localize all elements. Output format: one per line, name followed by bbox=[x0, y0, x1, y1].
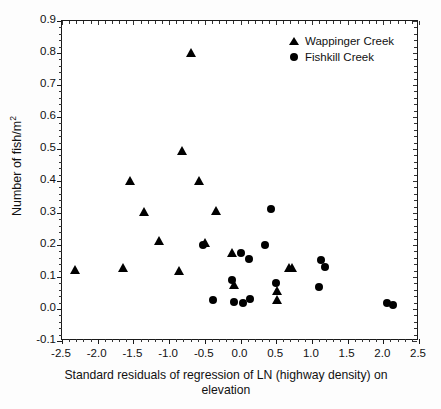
data-point-circle bbox=[261, 241, 269, 249]
y-tick-right-minor bbox=[414, 27, 417, 28]
y-tick-right-minor bbox=[414, 162, 417, 163]
x-tick-minor bbox=[326, 339, 327, 342]
x-tick-minor bbox=[183, 339, 184, 342]
x-tick-top-minor bbox=[233, 21, 234, 24]
x-tick-top-minor bbox=[319, 21, 320, 24]
x-tick-major bbox=[348, 339, 349, 344]
y-tick-right-minor bbox=[414, 303, 417, 304]
legend-entry-wappinger-creek: Wappinger Creek bbox=[286, 33, 421, 48]
x-tick-minor bbox=[233, 339, 234, 342]
y-tick-minor bbox=[59, 162, 62, 163]
y-tick-minor bbox=[59, 232, 62, 233]
x-tick-minor bbox=[398, 339, 399, 342]
x-tick-minor bbox=[105, 339, 106, 342]
x-tick-top-minor bbox=[119, 21, 120, 24]
x-tick-minor bbox=[83, 339, 84, 342]
y-tick-minor bbox=[59, 98, 62, 99]
x-tick-major bbox=[276, 339, 277, 344]
y-tick-minor bbox=[59, 72, 62, 73]
x-tick-top-major bbox=[133, 21, 134, 25]
y-tick-minor bbox=[59, 34, 62, 35]
y-tick-right-major bbox=[413, 341, 417, 342]
y-tick-minor bbox=[59, 194, 62, 195]
x-tick-top-major bbox=[205, 21, 206, 25]
x-tick-top-major bbox=[241, 21, 242, 25]
data-point-triangle bbox=[272, 295, 282, 304]
x-tick-minor bbox=[212, 339, 213, 342]
y-tick-right-minor bbox=[414, 98, 417, 99]
y-tick-minor bbox=[59, 66, 62, 67]
y-tick-minor bbox=[59, 283, 62, 284]
y-tick-minor bbox=[59, 239, 62, 240]
y-tick-major bbox=[57, 53, 62, 54]
x-tick-top-minor bbox=[283, 21, 284, 24]
x-tick-major bbox=[62, 339, 63, 344]
y-tick-minor bbox=[59, 258, 62, 259]
data-point-triangle bbox=[177, 146, 187, 155]
y-tick-major bbox=[57, 309, 62, 310]
x-tick-major bbox=[312, 339, 313, 344]
y-tick-right-minor bbox=[414, 264, 417, 265]
y-tick-right-minor bbox=[414, 66, 417, 67]
y-tick-major bbox=[57, 341, 62, 342]
x-tick-top-minor bbox=[212, 21, 213, 24]
x-tick-major bbox=[383, 339, 384, 344]
y-tick-right-minor bbox=[414, 136, 417, 137]
triangle-icon bbox=[286, 37, 302, 45]
x-axis-title: Standard residuals of regression of LN (… bbox=[40, 368, 412, 398]
x-tick-minor bbox=[340, 339, 341, 342]
x-tick-minor bbox=[141, 339, 142, 342]
legend-label-wappinger-creek: Wappinger Creek bbox=[302, 35, 394, 47]
x-tick-major bbox=[133, 339, 134, 344]
data-point-triangle bbox=[174, 266, 184, 275]
x-tick-label-group: -2.5-2.0-1.5-1.0-0.50.00.51.01.52.02.5 bbox=[0, 348, 441, 364]
y-tick-right-minor bbox=[414, 143, 417, 144]
y-tick-minor bbox=[59, 207, 62, 208]
y-tick-right-minor bbox=[414, 296, 417, 297]
y-tick-label: 0.7 bbox=[10, 78, 56, 90]
y-tick-minor bbox=[59, 155, 62, 156]
y-tick-minor bbox=[59, 143, 62, 144]
y-tick-minor bbox=[59, 290, 62, 291]
data-point-triangle bbox=[272, 286, 282, 295]
x-tick-top-minor bbox=[326, 21, 327, 24]
y-tick-major bbox=[57, 85, 62, 86]
x-tick-top-major bbox=[348, 21, 349, 25]
circle-icon bbox=[286, 53, 302, 61]
x-axis-title-line2: elevation bbox=[40, 383, 412, 398]
y-tick-right-minor bbox=[414, 72, 417, 73]
y-tick-right-major bbox=[413, 85, 417, 86]
y-tick-minor bbox=[59, 47, 62, 48]
x-tick-top-minor bbox=[269, 21, 270, 24]
y-tick-label: 0.5 bbox=[10, 142, 56, 154]
y-tick-right-minor bbox=[414, 200, 417, 201]
x-tick-major bbox=[98, 339, 99, 344]
x-tick-top-minor bbox=[191, 21, 192, 24]
x-tick-minor bbox=[248, 339, 249, 342]
x-tick-major bbox=[169, 339, 170, 344]
y-tick-minor bbox=[59, 111, 62, 112]
x-tick-top-minor bbox=[76, 21, 77, 24]
x-tick-minor bbox=[119, 339, 120, 342]
x-tick-top-minor bbox=[155, 21, 156, 24]
x-tick-top-minor bbox=[83, 21, 84, 24]
x-tick-top-major bbox=[276, 21, 277, 25]
data-point-triangle bbox=[125, 176, 135, 185]
y-tick-major bbox=[57, 149, 62, 150]
x-tick-minor bbox=[69, 339, 70, 342]
x-tick-top-minor bbox=[141, 21, 142, 24]
x-tick-top-minor bbox=[340, 21, 341, 24]
y-tick-minor bbox=[59, 59, 62, 60]
x-tick-top-major bbox=[419, 21, 420, 25]
x-tick-top-minor bbox=[176, 21, 177, 24]
y-tick-right-minor bbox=[414, 91, 417, 92]
x-tick-top-minor bbox=[262, 21, 263, 24]
x-tick-label: 2.5 bbox=[396, 348, 440, 360]
y-tick-right-minor bbox=[414, 315, 417, 316]
y-tick-major bbox=[57, 245, 62, 246]
x-tick-minor bbox=[362, 339, 363, 342]
x-tick-top-major bbox=[169, 21, 170, 25]
data-point-triangle bbox=[287, 263, 297, 272]
x-tick-minor bbox=[162, 339, 163, 342]
x-tick-minor bbox=[198, 339, 199, 342]
